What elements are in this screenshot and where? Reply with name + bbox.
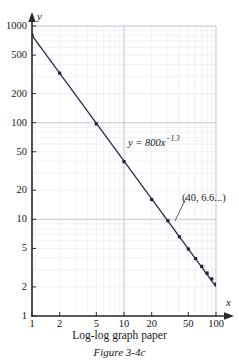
data-point	[122, 160, 125, 163]
data-point	[210, 277, 213, 280]
data-point	[178, 235, 181, 238]
data-point	[214, 282, 217, 285]
x-tick-100: 100	[208, 319, 224, 330]
equation-annotation: y = 800x−1.3	[128, 134, 180, 148]
log-log-plot	[0, 0, 239, 361]
data-point	[187, 247, 190, 250]
axis-lines	[32, 22, 224, 316]
data-point	[166, 219, 169, 222]
data-point	[194, 257, 197, 260]
x-tick-2: 2	[57, 319, 62, 330]
x-tick-5: 5	[94, 319, 99, 330]
point-coordinate-annotation: (40, 6.6...)	[182, 192, 226, 203]
y-tick-1: 1	[0, 311, 27, 322]
x-axis-label: x	[226, 296, 231, 308]
figure-number-caption: Figure 3-4c	[0, 346, 239, 358]
data-point	[58, 72, 61, 75]
y-tick-20: 20	[0, 185, 27, 196]
equation-text: y = 800x	[128, 137, 165, 148]
y-tick-1000: 1000	[0, 21, 27, 32]
data-point	[150, 198, 153, 201]
data-point	[205, 271, 208, 274]
x-tick-50: 50	[183, 319, 194, 330]
y-tick-200: 200	[0, 88, 27, 99]
y-tick-50: 50	[0, 147, 27, 158]
x-tick-20: 20	[146, 319, 157, 330]
figure-caption-main: Log-log graph paper	[0, 329, 239, 341]
figure-container: y x 1000500200100502010521 125102050100 …	[0, 0, 239, 361]
x-tick-10: 10	[119, 319, 130, 330]
data-point	[30, 34, 33, 37]
data-point	[200, 265, 203, 268]
data-point	[95, 122, 98, 125]
y-tick-2: 2	[0, 282, 27, 293]
equation-exponent: −1.3	[165, 134, 179, 143]
axis-arrowheads	[28, 12, 234, 320]
x-tick-1: 1	[29, 319, 34, 330]
y-tick-100: 100	[0, 117, 27, 128]
y-tick-5: 5	[0, 243, 27, 254]
y-axis-label: y	[37, 10, 42, 22]
y-tick-10: 10	[0, 214, 27, 225]
y-tick-500: 500	[0, 50, 27, 61]
